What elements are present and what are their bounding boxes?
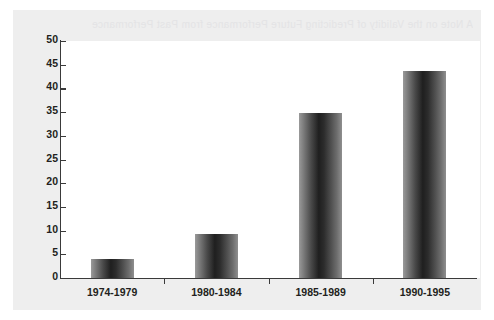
y-axis-tick-mark [61,231,66,232]
y-axis-tick-label: 40 [46,81,58,92]
x-axis-tick-mark [373,279,374,284]
x-axis-category-label: 1985-1989 [269,287,373,298]
y-axis-tick-mark [61,112,66,113]
y-axis-tick-label: 30 [46,129,58,140]
y-axis-tick-mark [61,254,66,255]
y-axis-tick-label: 20 [46,176,58,187]
scan-bleedthrough-artifact: A Note on the Validity of Predicting Fut… [43,19,473,33]
y-axis-tick-label: 10 [46,224,58,235]
scanned-page: A Note on the Validity of Predicting Fut… [0,0,494,320]
bar-1980-1984 [195,234,238,278]
x-axis-category-label: 1974-1979 [60,287,164,298]
y-axis-tick-mark [61,278,66,279]
y-axis-tick-mark [61,160,66,161]
x-axis-tick-mark [164,279,165,284]
y-axis-tick-mark [61,65,66,66]
y-axis-tick-mark [61,183,66,184]
y-axis-tick-label: 5 [52,247,58,258]
y-axis-tick-mark [61,41,66,42]
bar-chart-figure: A Note on the Validity of Predicting Fut… [13,10,481,310]
x-axis-category-label: 1990-1995 [373,287,477,298]
bar-1974-1979 [91,259,134,278]
bar-1990-1995 [403,71,446,278]
y-axis-tick-mark [61,207,66,208]
y-axis-tick-label: 0 [52,271,58,282]
x-axis-tick-mark [269,279,270,284]
y-axis-tick-label: 50 [46,34,58,45]
y-axis-tick-label: 25 [46,153,58,164]
y-axis-tick-mark [61,88,66,89]
y-axis-tick-mark [61,136,66,137]
bar-1985-1989 [299,113,342,278]
x-axis-category-label: 1980-1984 [164,287,268,298]
y-axis-tick-label: 45 [46,58,58,69]
y-axis-tick-label: 15 [46,200,58,211]
y-axis-tick-label: 35 [46,105,58,116]
